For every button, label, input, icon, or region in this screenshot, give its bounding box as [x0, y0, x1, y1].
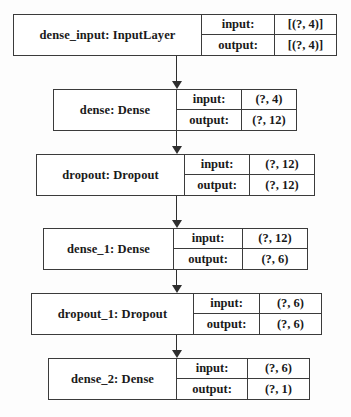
layer-name-dropout: dropout: Dropout: [37, 155, 184, 195]
arrowhead-icon-dense_input-to-dense: [172, 81, 182, 89]
input-label-dense_input: input:: [202, 15, 274, 34]
arrowhead-icon-dropout_1-to-dense_2: [172, 350, 182, 358]
output-shape-dropout_1: (?, 6): [259, 314, 321, 334]
connector-dense-to-dropout: [176, 131, 177, 146]
input-row-dense_input: input:[(?, 4)]: [202, 15, 336, 35]
output-row-dropout_1: output:(?, 6): [194, 314, 321, 334]
io-shape-table-dropout_1: input:(?, 6)output:(?, 6): [193, 294, 321, 334]
output-shape-dense_1: (?, 6): [242, 249, 307, 269]
layer-node-dense_input[interactable]: dense_input: InputLayerinput:[(?, 4)]out…: [13, 14, 337, 56]
arrowhead-icon-dense_1-to-dropout_1: [172, 285, 182, 293]
layer-name-dense_2: dense_2: Dense: [49, 359, 176, 399]
input-shape-dense_input: [(?, 4)]: [274, 15, 336, 34]
layer-name-dense: dense: Dense: [54, 90, 176, 130]
layer-node-dropout_1[interactable]: dropout_1: Dropoutinput:(?, 6)output:(?,…: [31, 293, 322, 335]
output-row-dense_2: output:(?, 1): [177, 379, 309, 399]
output-label-dense_2: output:: [177, 379, 247, 399]
output-label-dense_input: output:: [202, 35, 274, 55]
layer-name-dense_input: dense_input: InputLayer: [14, 15, 201, 55]
input-label-dense: input:: [177, 90, 241, 109]
io-shape-table-dense_1: input:(?, 12)output:(?, 6): [173, 229, 307, 269]
input-row-dense: input:(?, 4): [177, 90, 296, 110]
arrowhead-icon-dense-to-dropout: [172, 146, 182, 154]
output-label-dense: output:: [177, 110, 241, 130]
output-row-dense_input: output:[(?, 4)]: [202, 35, 336, 55]
layer-node-dense_2[interactable]: dense_2: Denseinput:(?, 6)output:(?, 1): [48, 358, 310, 400]
io-shape-table-dropout: input:(?, 12)output:(?, 12): [184, 155, 314, 195]
io-shape-table-dense_input: input:[(?, 4)]output:[(?, 4)]: [201, 15, 336, 55]
input-shape-dense_1: (?, 12): [242, 229, 307, 248]
layer-node-dense[interactable]: dense: Denseinput:(?, 4)output:(?, 12): [53, 89, 297, 131]
input-label-dropout_1: input:: [194, 294, 259, 313]
input-label-dense_1: input:: [174, 229, 242, 248]
connector-dense_1-to-dropout_1: [176, 270, 177, 285]
input-label-dropout: input:: [185, 155, 249, 174]
output-shape-dense: (?, 12): [241, 110, 296, 130]
input-shape-dense: (?, 4): [241, 90, 296, 109]
input-row-dropout_1: input:(?, 6): [194, 294, 321, 314]
io-shape-table-dense: input:(?, 4)output:(?, 12): [176, 90, 296, 130]
layer-node-dense_1[interactable]: dense_1: Denseinput:(?, 12)output:(?, 6): [43, 228, 308, 270]
output-row-dense: output:(?, 12): [177, 110, 296, 130]
output-label-dense_1: output:: [174, 249, 242, 269]
io-shape-table-dense_2: input:(?, 6)output:(?, 1): [176, 359, 309, 399]
connector-dense_input-to-dense: [176, 56, 177, 81]
layer-name-dense_1: dense_1: Dense: [44, 229, 173, 269]
connector-dropout_1-to-dense_2: [176, 335, 177, 350]
output-label-dropout_1: output:: [194, 314, 259, 334]
layer-name-dropout_1: dropout_1: Dropout: [32, 294, 193, 334]
input-shape-dropout_1: (?, 6): [259, 294, 321, 313]
model-architecture-diagram: dense_input: InputLayerinput:[(?, 4)]out…: [0, 0, 351, 417]
input-shape-dropout: (?, 12): [249, 155, 314, 174]
arrowhead-icon-dropout-to-dense_1: [172, 220, 182, 228]
output-row-dropout: output:(?, 12): [185, 175, 314, 195]
output-row-dense_1: output:(?, 6): [174, 249, 307, 269]
input-label-dense_2: input:: [177, 359, 247, 378]
layer-node-dropout[interactable]: dropout: Dropoutinput:(?, 12)output:(?, …: [36, 154, 315, 196]
connector-dropout-to-dense_1: [176, 196, 177, 220]
input-row-dense_1: input:(?, 12): [174, 229, 307, 249]
input-row-dense_2: input:(?, 6): [177, 359, 309, 379]
output-shape-dense_2: (?, 1): [247, 379, 309, 399]
output-shape-dropout: (?, 12): [249, 175, 314, 195]
output-shape-dense_input: [(?, 4)]: [274, 35, 336, 55]
output-label-dropout: output:: [185, 175, 249, 195]
input-shape-dense_2: (?, 6): [247, 359, 309, 378]
input-row-dropout: input:(?, 12): [185, 155, 314, 175]
